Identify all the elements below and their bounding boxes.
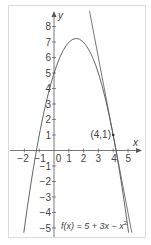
graph-frame bbox=[9, 6, 146, 238]
x-tick-1: 1 bbox=[66, 153, 72, 164]
y-tick-2: 2 bbox=[45, 114, 51, 125]
y-axis-label: y bbox=[57, 10, 64, 21]
y-tick-1: 1 bbox=[45, 130, 51, 141]
y-tick-m1: −1 bbox=[40, 161, 52, 172]
y-tick-6: 6 bbox=[45, 52, 51, 63]
x-tick-0: 0 bbox=[56, 153, 62, 164]
y-tick-7: 7 bbox=[45, 37, 51, 48]
y-tick-m3: −3 bbox=[40, 192, 52, 203]
y-tick-8: 8 bbox=[45, 21, 51, 32]
function-graph: x y −2 −1 0 1 2 3 4 5 8 bbox=[0, 0, 151, 245]
x-tick-5: 5 bbox=[126, 153, 132, 164]
x-axis-label: x bbox=[132, 137, 139, 148]
y-tick-m2: −2 bbox=[40, 176, 52, 187]
x-tick-3: 3 bbox=[96, 153, 102, 164]
y-tick-m5: −5 bbox=[40, 223, 52, 234]
formula-body: f(x) = 5 + 3x − x bbox=[61, 221, 124, 231]
x-tick-2: 2 bbox=[81, 153, 87, 164]
function-formula: f(x) = 5 + 3x − x2 bbox=[61, 220, 128, 231]
y-tick-5: 5 bbox=[45, 68, 51, 79]
tangent-point-label: (4,1) bbox=[90, 129, 111, 140]
tangent-point-marker bbox=[112, 134, 115, 137]
x-tick-m2: −2 bbox=[17, 153, 29, 164]
y-tick-m4: −4 bbox=[40, 207, 52, 218]
